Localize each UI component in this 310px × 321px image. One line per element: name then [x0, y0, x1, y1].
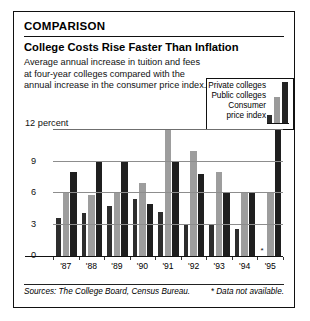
bar-pub: [114, 193, 121, 256]
bar-group: [232, 130, 258, 256]
x-tick: [104, 257, 105, 260]
bar-group: *: [258, 130, 284, 256]
bar-priv: [198, 174, 205, 256]
bar-priv: [172, 162, 179, 257]
bar-cpi: [82, 213, 87, 256]
x-tick: [181, 257, 182, 260]
x-axis-labels: '87'88'89'90'91'92'93'94'95: [53, 261, 283, 273]
bar-cpi: [209, 225, 214, 257]
bar-cpi: [235, 229, 240, 256]
legend-labels: Private colleges Public colleges Consume…: [207, 81, 269, 120]
bar-cpi: [184, 225, 189, 257]
bar-cpi: [133, 199, 138, 256]
bar-pub: [267, 193, 274, 256]
bar-groups: *: [53, 130, 283, 256]
bar-pub: [88, 195, 95, 256]
x-tick: [257, 257, 258, 260]
legend-item-private: Private colleges: [207, 81, 269, 91]
bar-group: [181, 130, 207, 256]
deck-line-3: annual increase in the consumer price in…: [24, 80, 200, 91]
x-tick: [130, 257, 131, 260]
bar-pub: [216, 172, 223, 256]
x-tick: [53, 257, 54, 260]
x-tick: [79, 257, 80, 260]
x-axis-label: '94: [232, 261, 258, 273]
legend-item-cpi-line1: Consumer: [207, 101, 269, 111]
x-tick: [232, 257, 233, 260]
screenshot-root: COMPARISON College Costs Rise Faster Tha…: [0, 0, 310, 321]
plot-area: *: [53, 130, 283, 256]
gridline-12: [53, 129, 283, 130]
bar-group: [79, 130, 105, 256]
x-axis-label: '93: [206, 261, 232, 273]
bar-priv: [275, 130, 282, 256]
gridline-3: [53, 224, 283, 225]
page-title: College Costs Rise Faster Than Inflation: [24, 41, 284, 54]
x-axis-label: '87: [53, 261, 79, 273]
legend-item-cpi-line2: price index: [207, 111, 269, 121]
deck-line-1: Average annual increase in tuition and f…: [24, 57, 200, 68]
card-deck: Average annual increase in tuition and f…: [24, 57, 200, 91]
bar-group: [53, 130, 79, 256]
bar-priv: [96, 162, 103, 257]
card-footer: Sources: The College Board, Census Burea…: [24, 287, 284, 299]
bar-priv: [121, 162, 128, 257]
missing-data-marker: *: [261, 247, 264, 255]
bar-chart: 12 percent 9 6 3 0 * '87'88'89'90'91'92'…: [25, 120, 285, 270]
x-axis-label: '95: [258, 261, 284, 273]
bar-priv: [70, 172, 77, 256]
footnote-text: * Data not available.: [211, 287, 284, 296]
y-axis-label-3: 3: [31, 219, 36, 229]
bar-cpi: [158, 212, 163, 256]
gridline-9: [53, 161, 283, 162]
bar-priv: [249, 193, 256, 256]
legend-item-public: Public colleges: [207, 91, 269, 101]
x-tick: [155, 257, 156, 260]
legend-swatch-public: [274, 97, 280, 123]
footer-rule: [24, 284, 284, 285]
kicker-rule: [24, 36, 284, 37]
comparison-card: COMPARISON College Costs Rise Faster Tha…: [13, 11, 295, 308]
gridline-6: [53, 192, 283, 193]
x-axis-label: '91: [155, 261, 181, 273]
legend-swatches: [267, 80, 289, 124]
x-axis-label: '90: [130, 261, 156, 273]
bar-pub: [139, 183, 146, 257]
bar-group: [104, 130, 130, 256]
x-tick: [283, 257, 284, 260]
x-axis-label: '92: [181, 261, 207, 273]
bar-pub: [241, 193, 248, 256]
x-axis-label: '88: [79, 261, 105, 273]
x-tick: [206, 257, 207, 260]
bar-pub: [190, 151, 197, 256]
y-axis-label-12: 12 percent: [25, 118, 68, 128]
y-axis-label-6: 6: [31, 187, 36, 197]
bar-priv: [147, 204, 154, 257]
card-kicker: COMPARISON: [24, 20, 284, 33]
sources-text: Sources: The College Board, Census Burea…: [24, 287, 190, 296]
bar-priv: [223, 193, 230, 256]
y-axis-label-9: 9: [31, 156, 36, 166]
x-axis-label: '89: [104, 261, 130, 273]
bar-pub: [165, 130, 172, 256]
bar-cpi: [107, 206, 112, 256]
bar-group: [155, 130, 181, 256]
bar-pub: [63, 193, 70, 256]
bar-group: [130, 130, 156, 256]
legend-swatch-private: [282, 82, 288, 123]
bar-group: [206, 130, 232, 256]
deck-line-2: at four-year colleges compared with the: [24, 69, 200, 80]
